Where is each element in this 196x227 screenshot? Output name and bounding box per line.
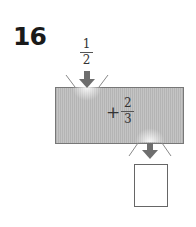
input-funnel-left bbox=[66, 75, 75, 87]
input-funnel-right bbox=[99, 75, 108, 87]
down-arrow-icon bbox=[142, 143, 158, 159]
output-funnel-right bbox=[162, 143, 171, 156]
operand-denominator: 3 bbox=[124, 113, 132, 126]
plus-operator: + bbox=[106, 102, 120, 122]
answer-box[interactable] bbox=[134, 164, 168, 207]
machine-operation: + 2 3 bbox=[106, 97, 134, 126]
output-funnel-left bbox=[129, 143, 138, 156]
operand-fraction: 2 3 bbox=[121, 97, 134, 126]
down-arrow-icon bbox=[79, 71, 95, 88]
operand-numerator: 2 bbox=[124, 97, 132, 110]
